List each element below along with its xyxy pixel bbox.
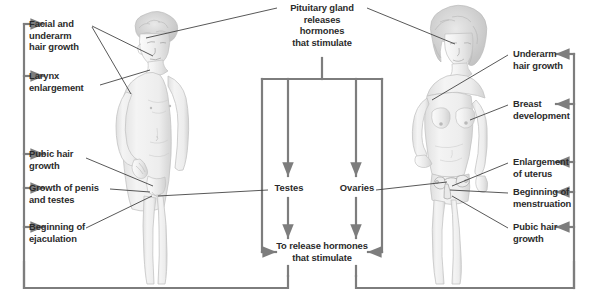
- label-beginning-ejaculation: Beginning of ejaculation: [29, 221, 101, 244]
- female-figure-illustration: [412, 5, 487, 284]
- label-pubic-hair-growth-female: Pubic hair growth: [513, 221, 587, 244]
- label-larynx-enlargement: Larynx enlargement: [29, 70, 97, 93]
- male-figure-illustration: [116, 11, 189, 284]
- label-beginning-menstruation: Beginning of menstruation: [513, 186, 595, 209]
- release-hormones-text: To release hormones that stimulate: [257, 240, 387, 263]
- puberty-diagram: Pituitary gland releases hormones that s…: [0, 0, 599, 300]
- ovaries-node: Ovaries: [334, 182, 380, 194]
- label-pubic-hair-growth-male: Pubic hair growth: [29, 148, 93, 171]
- label-underarm-hair-growth: Underarm hair growth: [513, 48, 591, 71]
- testes-node: Testes: [268, 182, 310, 194]
- label-breast-development: Breast development: [513, 98, 593, 121]
- label-growth-penis-testes: Growth of penis and testes: [29, 182, 109, 205]
- label-facial-underarm-hair: Facial and underarm hair growth: [29, 18, 95, 53]
- pituitary-gland-text: Pituitary gland releases hormones that s…: [261, 2, 383, 48]
- label-enlargement-of-uterus: Enlargement of uterus: [513, 156, 593, 179]
